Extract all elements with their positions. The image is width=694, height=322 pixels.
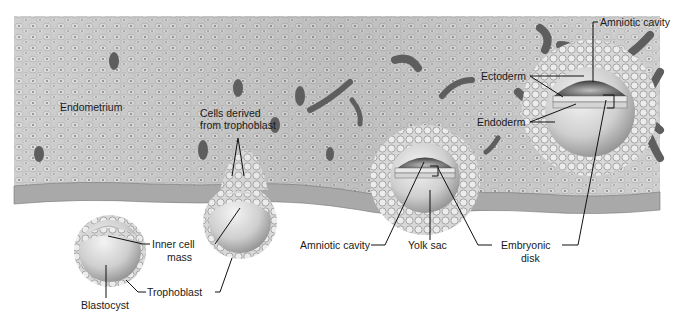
embryo-early <box>370 125 480 235</box>
label-embryonic-line1: Embryonic <box>501 239 551 251</box>
implantation-diagram <box>0 0 694 322</box>
label-embryonic-line2: disk <box>521 252 540 264</box>
label-ectoderm: Ectoderm <box>481 70 526 82</box>
label-yolk-sac: Yolk sac <box>408 239 447 251</box>
label-cells-derived-line1: Cells derived <box>200 107 261 119</box>
embryo-later <box>522 40 658 176</box>
label-endometrium: Endometrium <box>60 101 122 113</box>
label-cells-derived-line2: from trophoblast <box>200 119 276 131</box>
label-inner-cell-line2: mass <box>167 251 192 263</box>
label-inner-cell-line1: Inner cell <box>152 238 195 250</box>
label-endoderm: Endoderm <box>477 116 525 128</box>
blastocyst-free <box>74 215 146 287</box>
label-amniotic-cavity-top: Amniotic cavity <box>600 16 670 28</box>
label-amniotic-cavity-bottom: Amniotic cavity <box>300 239 370 251</box>
label-trophoblast: Trophoblast <box>147 286 202 298</box>
label-blastocyst: Blastocyst <box>81 299 129 311</box>
